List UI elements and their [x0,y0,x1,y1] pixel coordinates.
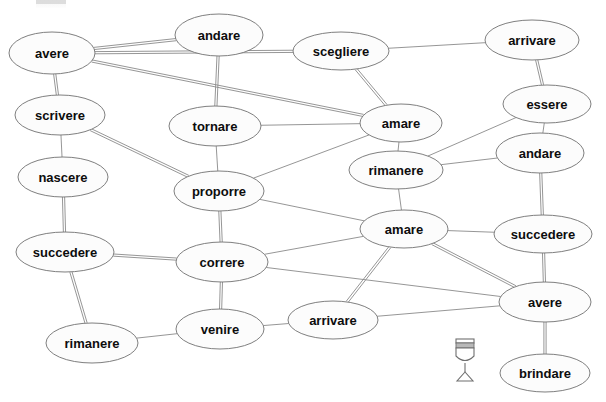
edge-strand [377,306,500,316]
edge-strand [398,142,399,151]
graph-node-brindare[interactable]: brindare [500,354,590,392]
edge-strand [94,39,176,48]
graph-node-scrivere[interactable]: scrivere [15,95,105,135]
edge-strand [348,248,391,303]
graph-node-rimanere-mid[interactable]: rimanere [349,151,443,189]
graph-node-andare-right[interactable]: andare [496,133,584,173]
graph-node-tornare[interactable]: tornare [169,106,261,146]
node-label: avere [35,46,69,61]
graph-edge [61,135,62,157]
node-label: venire [201,322,239,337]
graph-node-correre[interactable]: correre [176,242,268,282]
graph-edge [220,282,223,309]
edge-strand [355,70,385,106]
graph-edge [543,123,544,133]
edge-strand [217,56,219,106]
graph-edge [216,146,218,171]
edge-strand [346,246,389,301]
node-label: arrivare [309,313,357,328]
node-label: correre [200,255,245,270]
edge-strand [357,68,387,104]
diagram-canvas: avereandaresceglierearrivarescriveretorn… [0,0,606,402]
node-label: rimanere [369,163,424,178]
edge-strand [222,282,223,309]
node-label: amare [385,222,423,237]
edge-strand [70,272,85,323]
graph-edge [355,68,387,106]
edge-strand [113,254,176,258]
node-label: scrivere [35,108,85,123]
edge-strand [399,189,402,210]
graph-node-avere-tl[interactable]: avere [9,32,95,74]
node-label: essere [526,97,567,112]
edge-strand [137,334,178,338]
graph-edge [260,199,364,220]
graph-node-arrivare-bot[interactable]: arrivare [288,301,378,339]
graph-edge [54,74,59,95]
edge-strand [545,253,546,282]
edge-strand [94,41,176,50]
graph-edge [62,197,65,232]
glass-rim [456,339,474,343]
edge-strand [72,272,87,323]
graph-edge [215,56,219,106]
graph-node-rimanere-bl[interactable]: rimanere [46,323,138,363]
graph-node-venire[interactable]: venire [176,309,264,349]
nodes-layer: avereandaresceglierearrivarescriveretorn… [9,14,592,392]
graph-edge [540,173,544,215]
graph-node-essere[interactable]: essere [503,85,591,123]
edge-strand [540,173,542,215]
edge-strand [543,123,544,133]
graph-node-scegliere[interactable]: scegliere [293,32,389,70]
graph-node-avere-r[interactable]: avere [499,282,591,322]
node-label: arrivare [508,33,556,48]
edge-strand [113,256,176,260]
glass-base [457,372,473,381]
edge-strand [263,324,288,326]
graph-node-andare-top[interactable]: andare [175,14,263,56]
graph-edge [536,60,544,86]
edge-strand [432,245,515,288]
edge-strand [260,199,364,220]
edge-strand [220,282,221,309]
graph-edge [263,324,288,326]
graph-node-amare-low[interactable]: amare [360,210,448,248]
graph-edge [346,246,391,302]
graph-edge [264,236,363,254]
edge-strand [266,267,501,296]
graph-edge [113,254,176,260]
graph-node-succedere-r[interactable]: succedere [494,215,592,253]
graph-node-succedere-l[interactable]: succedere [16,232,114,272]
edge-strand [65,197,66,232]
graph-edge [377,306,500,316]
node-label: andare [519,146,562,161]
graph-edge [448,231,494,233]
graph-node-amare-up[interactable]: amare [360,104,442,142]
champagne-glass-icon [456,339,474,381]
edge-strand [219,211,220,242]
graph-edge [398,142,399,151]
edge-strand [542,253,543,282]
graph-edge [219,211,223,242]
icons-layer [456,339,474,381]
node-label: andare [198,28,241,43]
graph-edge [544,322,546,354]
node-label: tornare [193,119,238,134]
graph-edge [389,43,486,49]
graph-edge [432,243,516,288]
graph-edge [94,39,176,50]
graph-edge [542,253,545,282]
edge-strand [448,231,494,233]
graph-node-arrivare-tr[interactable]: arrivare [485,20,579,60]
graph-node-nascere[interactable]: nascere [18,157,108,197]
graph-node-proporre[interactable]: proporre [174,171,264,211]
edge-strand [389,43,486,49]
edge-strand [61,135,62,157]
edge-strand [215,56,217,106]
graph-edge [266,267,501,296]
graph-edge [399,189,402,210]
glass-band [456,343,474,348]
edge-strand [264,236,363,254]
edge-strand [62,197,63,232]
graph-svg: avereandaresceglierearrivarescriveretorn… [0,0,606,402]
